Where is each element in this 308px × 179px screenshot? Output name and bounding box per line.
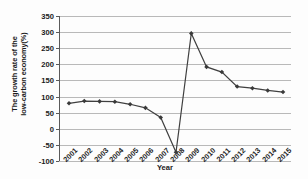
y-tick-label: 100 [41, 92, 54, 101]
series-layer [59, 16, 291, 161]
data-point-marker [128, 102, 133, 107]
line-series [59, 16, 291, 161]
y-tick-label: 300 [41, 28, 54, 37]
data-point-marker [281, 90, 286, 95]
y-tick-label: 200 [41, 60, 54, 69]
data-point-marker [67, 101, 72, 106]
data-point-marker [97, 99, 102, 104]
data-point-marker [265, 88, 270, 93]
y-tick-label: 350 [41, 12, 54, 21]
plot-area: 350300250200150100500-50-100200120022003… [59, 16, 291, 161]
x-axis-title: Year [0, 163, 308, 172]
y-axis-title-line-2: low-carbon economy(%) [19, 32, 28, 115]
data-point-marker [82, 99, 87, 104]
y-tick-label: 250 [41, 44, 54, 53]
y-tick-label: 50 [46, 108, 54, 117]
y-tick-label: 0 [50, 124, 54, 133]
series-line [69, 33, 283, 152]
y-axis-title: The growth rate of the low-carbon econom… [4, 14, 34, 134]
data-point-marker [113, 99, 118, 104]
data-point-marker [204, 65, 209, 70]
y-tick-label: -50 [43, 140, 54, 149]
y-tick [56, 161, 59, 162]
chart-figure: The growth rate of the low-carbon econom… [0, 0, 308, 179]
data-point-marker [189, 31, 194, 36]
y-axis-title-line-1: The growth rate of the [10, 32, 19, 115]
data-point-marker [174, 150, 179, 155]
data-point-marker [250, 86, 255, 91]
y-tick-label: 150 [41, 76, 54, 85]
